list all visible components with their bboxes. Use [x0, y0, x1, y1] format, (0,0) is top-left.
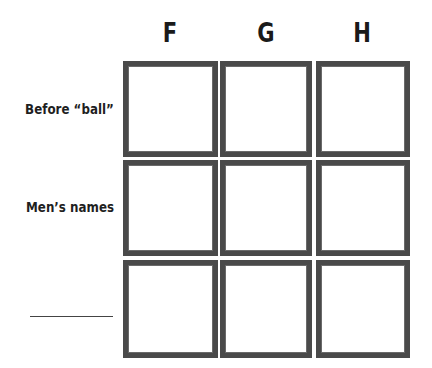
column-header-f: F: [133, 18, 206, 48]
cell-r2-g[interactable]: [220, 160, 312, 256]
cell-r2-h[interactable]: [316, 160, 410, 256]
column-header-h: H: [325, 18, 398, 48]
cell-r3-f[interactable]: [123, 260, 218, 358]
cell-r2-f[interactable]: [123, 160, 218, 256]
row-label-mens-names: Men’s names: [26, 199, 114, 215]
cell-r3-g[interactable]: [220, 260, 312, 358]
cell-r1-f[interactable]: [123, 61, 218, 157]
cell-r1-g[interactable]: [220, 61, 312, 157]
cell-r3-h[interactable]: [316, 260, 410, 358]
cell-r1-h[interactable]: [316, 61, 410, 157]
column-header-g: G: [229, 18, 302, 48]
row-label-blank-line[interactable]: [30, 316, 113, 317]
row-label-before-ball: Before “ball”: [25, 101, 114, 117]
